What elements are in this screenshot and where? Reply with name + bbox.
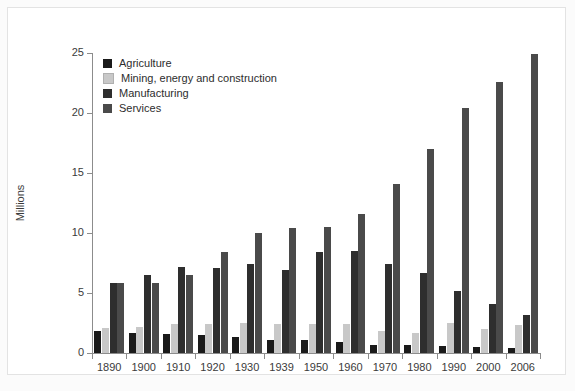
x-tick (126, 354, 127, 359)
bar (232, 337, 239, 353)
bar (439, 346, 446, 353)
x-tick (195, 354, 196, 359)
bar (393, 184, 400, 353)
y-tick-label: 20 (52, 107, 84, 118)
bar (309, 324, 316, 353)
x-tick (540, 354, 541, 359)
bar (370, 345, 377, 353)
x-axis-line (92, 353, 541, 354)
bar (102, 328, 109, 353)
bar (178, 267, 185, 353)
bar (152, 283, 159, 353)
x-tick (299, 354, 300, 359)
legend-label: Services (119, 103, 161, 114)
bar (144, 275, 151, 353)
bar-group (506, 53, 540, 353)
bar (198, 335, 205, 353)
legend-swatch-icon (103, 104, 112, 113)
bar (447, 323, 454, 353)
x-tick (506, 354, 507, 359)
bar-group (368, 53, 402, 353)
bar (523, 315, 530, 353)
x-tick (92, 354, 93, 359)
x-tick (161, 354, 162, 359)
bar (282, 270, 289, 353)
bar (213, 268, 220, 353)
bar (515, 325, 522, 353)
y-tick-label: 10 (52, 227, 84, 238)
bar (94, 331, 101, 353)
bar (255, 233, 262, 353)
x-tick (264, 354, 265, 359)
y-tick-label: 25 (52, 47, 84, 58)
legend-item: Services (103, 101, 277, 116)
bar-group (471, 53, 505, 353)
bar (508, 348, 515, 353)
chart-frame: Millions 0510152025 18901900191019201930… (7, 7, 566, 375)
bar (129, 333, 136, 353)
bar (163, 334, 170, 353)
x-tick (368, 354, 369, 359)
bar (481, 329, 488, 353)
bar (473, 347, 480, 353)
bar-group (299, 53, 333, 353)
bar (336, 342, 343, 353)
bar (205, 324, 212, 353)
bar-group (437, 53, 471, 353)
y-tick-label: 15 (52, 167, 84, 178)
bar-group (402, 53, 436, 353)
bar (274, 324, 281, 353)
bar (301, 340, 308, 353)
legend-swatch-icon (103, 59, 112, 68)
bar (110, 283, 117, 353)
bar (378, 331, 385, 353)
bar (404, 345, 411, 353)
bar (171, 324, 178, 353)
bar (221, 252, 228, 353)
bar (412, 333, 419, 353)
legend-label: Agriculture (119, 58, 172, 69)
bar (385, 264, 392, 353)
x-tick (471, 354, 472, 359)
y-tick-label: 5 (52, 287, 84, 298)
bar (240, 323, 247, 353)
bar (136, 327, 143, 353)
legend-item: Mining, energy and construction (103, 71, 277, 86)
legend-swatch-icon (103, 73, 114, 84)
bar (289, 228, 296, 353)
bar (358, 214, 365, 353)
y-tick-label: 0 (52, 347, 84, 358)
bar (267, 340, 274, 353)
bar (531, 54, 538, 353)
bar (454, 291, 461, 353)
bar (316, 252, 323, 353)
legend-item: Agriculture (103, 56, 277, 71)
legend-label: Manufacturing (119, 88, 189, 99)
bar (420, 273, 427, 353)
chart-legend: AgricultureMining, energy and constructi… (103, 56, 277, 116)
bar (343, 324, 350, 353)
x-tick-label: 2006 (500, 362, 546, 373)
x-tick (230, 354, 231, 359)
bar (247, 264, 254, 353)
legend-item: Manufacturing (103, 86, 277, 101)
bar (324, 227, 331, 353)
y-axis-title: Millions (14, 143, 26, 263)
x-tick (437, 354, 438, 359)
bar (462, 108, 469, 353)
legend-swatch-icon (103, 89, 112, 98)
bar (496, 82, 503, 353)
bar (186, 275, 193, 353)
x-tick (402, 354, 403, 359)
bar (117, 283, 124, 353)
bar (427, 149, 434, 353)
bar (351, 251, 358, 353)
bar-group (333, 53, 367, 353)
legend-label: Mining, energy and construction (121, 73, 277, 84)
x-tick (333, 354, 334, 359)
bar (489, 304, 496, 353)
